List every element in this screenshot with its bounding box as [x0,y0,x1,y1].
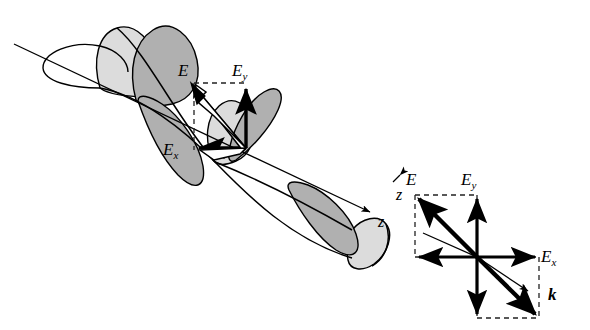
label-Ex-main-sub: x [172,149,178,161]
wave-lobe-dark-lower-right [288,182,358,255]
label-Ey-main: Ey [231,61,247,82]
inset-label-Ey: Ey [460,170,476,191]
inset-label-Ex-sub: x [550,256,556,268]
label-E-main: E [177,61,189,80]
label-z-main: z [377,213,385,230]
inset-label-Ex: Ex [540,247,556,268]
inset-axis-z-arrow [393,175,400,182]
inset-label-Ey-base: E [460,170,472,189]
inset-transverse-diagram: E Ey Ex z k [393,170,557,318]
inset-label-Ex-base: E [540,247,552,266]
polarization-figure: E Ey Ex z [0,0,590,330]
label-Ey-main-base: E [231,61,243,80]
inset-axis-z-line [423,233,477,257]
inset-vector-k-line [477,257,528,291]
main-wave-diagram: E Ey Ex z [14,26,390,269]
inset-label-k: k [548,285,557,304]
figure-canvas: E Ey Ex z [0,0,590,330]
inset-label-Ey-sub: y [470,179,476,191]
inset-vector-E-upleft [419,199,477,257]
label-Ex-main-base: E [162,140,174,159]
inset-label-E: E [405,170,417,189]
label-Ey-main-sub: y [241,70,247,82]
inset-label-z: z [395,186,403,203]
inset-vector-E-downright [477,257,535,314]
